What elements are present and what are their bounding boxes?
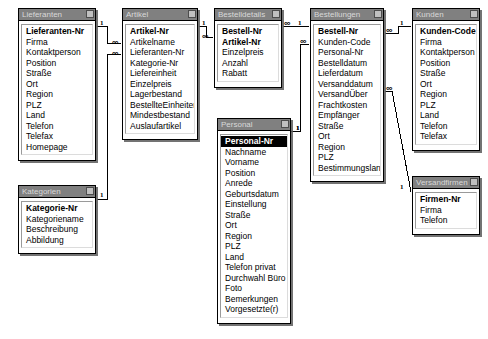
field-row-primary-key[interactable]: Artikel-Nr: [218, 37, 278, 48]
field-row[interactable]: Kategoriename: [22, 214, 92, 225]
field-row-primary-key[interactable]: Personal-Nr: [221, 136, 287, 147]
field-row[interactable]: Einzelpreis: [218, 47, 278, 58]
table-title-kategorien[interactable]: Kategorien: [19, 186, 95, 198]
table-window-bestelldetails[interactable]: BestelldetailsBestell-NrArtikel-NrEinzel…: [214, 8, 282, 88]
field-row[interactable]: Nachname: [221, 147, 287, 158]
field-row[interactable]: Land: [221, 252, 287, 263]
field-row[interactable]: Kontaktperson: [416, 47, 476, 58]
field-row[interactable]: Ort: [221, 220, 287, 231]
table-window-button[interactable]: [470, 178, 478, 186]
field-row-primary-key[interactable]: Bestell-Nr: [314, 26, 380, 37]
field-row[interactable]: Vorgesetzte(r): [221, 304, 287, 315]
field-row[interactable]: Lagerbestand: [126, 89, 194, 100]
table-window-versandfirmen[interactable]: VersandfirmenFirmen-NrFirmaTelefon: [412, 176, 480, 235]
table-window-kunden[interactable]: KundenKunden-CodeFirmaKontaktpersonPosit…: [412, 8, 480, 151]
field-row[interactable]: Land: [416, 110, 476, 121]
field-row-primary-key[interactable]: Firmen-Nr: [416, 194, 476, 205]
field-row[interactable]: Auslaufartikel: [126, 121, 194, 132]
field-row[interactable]: Region: [314, 142, 380, 153]
field-row[interactable]: Homepage: [22, 142, 92, 153]
table-window-button[interactable]: [374, 10, 382, 18]
table-field-list-kunden[interactable]: Kunden-CodeFirmaKontaktpersonPositionStr…: [413, 21, 479, 150]
field-row[interactable]: Ort: [416, 79, 476, 90]
table-field-list-lieferanten[interactable]: Lieferanten-NrFirmaKontaktpersonPosition…: [19, 21, 95, 160]
field-row[interactable]: PLZ: [22, 100, 92, 111]
table-field-list-bestellungen[interactable]: Bestell-NrKunden-CodePersonal-NrBestelld…: [311, 21, 383, 181]
field-row[interactable]: Telefon: [416, 121, 476, 132]
field-row[interactable]: Mindestbestand: [126, 110, 194, 121]
field-row[interactable]: Position: [416, 58, 476, 69]
field-row[interactable]: Beschreibung: [22, 224, 92, 235]
field-row-primary-key[interactable]: Artikel-Nr: [126, 26, 194, 37]
field-row[interactable]: Kategorie-Nr: [126, 58, 194, 69]
field-row[interactable]: PLZ: [416, 100, 476, 111]
field-row[interactable]: Durchwahl Büro: [221, 273, 287, 284]
table-window-button[interactable]: [272, 10, 280, 18]
field-row[interactable]: Firma: [22, 37, 92, 48]
field-row[interactable]: PLZ: [314, 152, 380, 163]
field-row[interactable]: VersandÜber: [314, 89, 380, 100]
field-row[interactable]: Firma: [416, 205, 476, 216]
table-window-kategorien[interactable]: KategorienKategorie-NrKategorienameBesch…: [18, 185, 96, 254]
field-row[interactable]: Straße: [221, 210, 287, 221]
field-row[interactable]: Bestelldatum: [314, 58, 380, 69]
table-window-personal[interactable]: PersonalPersonal-NrNachnameVornamePositi…: [217, 118, 291, 324]
field-row[interactable]: PLZ: [221, 241, 287, 252]
field-row[interactable]: Einzelpreis: [126, 79, 194, 90]
field-row[interactable]: Anzahl: [218, 58, 278, 69]
table-title-versandfirmen[interactable]: Versandfirmen: [413, 177, 479, 189]
field-row[interactable]: Region: [22, 89, 92, 100]
field-row[interactable]: Region: [221, 231, 287, 242]
table-window-lieferanten[interactable]: LieferantenLieferanten-NrFirmaKontaktper…: [18, 8, 96, 161]
table-field-list-bestelldetails[interactable]: Bestell-NrArtikel-NrEinzelpreisAnzahlRab…: [215, 21, 281, 87]
field-row[interactable]: Region: [416, 89, 476, 100]
field-row[interactable]: Straße: [314, 121, 380, 132]
field-row[interactable]: Land: [22, 110, 92, 121]
field-row[interactable]: Vorname: [221, 157, 287, 168]
field-row[interactable]: Position: [22, 58, 92, 69]
table-field-list-artikel[interactable]: Artikel-NrArtikelnameLieferanten-NrKateg…: [123, 21, 197, 139]
field-row[interactable]: Straße: [416, 68, 476, 79]
field-row[interactable]: Telefax: [416, 131, 476, 142]
field-row[interactable]: Kunden-Code: [314, 37, 380, 48]
table-field-list-kategorien[interactable]: Kategorie-NrKategorienameBeschreibungAbb…: [19, 198, 95, 253]
field-row[interactable]: Kontaktperson: [22, 47, 92, 58]
table-window-artikel[interactable]: ArtikelArtikel-NrArtikelnameLieferanten-…: [122, 8, 198, 140]
field-row[interactable]: Firma: [416, 37, 476, 48]
field-row-primary-key[interactable]: Bestell-Nr: [218, 26, 278, 37]
field-row[interactable]: Abbildung: [22, 235, 92, 246]
field-row[interactable]: Artikelname: [126, 37, 194, 48]
field-row[interactable]: BestellteEinheiten: [126, 100, 194, 111]
field-row[interactable]: Versanddatum: [314, 79, 380, 90]
field-row[interactable]: Anrede: [221, 178, 287, 189]
table-title-artikel[interactable]: Artikel: [123, 9, 197, 21]
relationship-line-versandfirmen-bestellungen[interactable]: [385, 91, 411, 192]
field-row-primary-key[interactable]: Kategorie-Nr: [22, 203, 92, 214]
table-window-button[interactable]: [281, 120, 289, 128]
table-title-kunden[interactable]: Kunden: [413, 9, 479, 21]
field-row[interactable]: Rabatt: [218, 68, 278, 79]
field-row[interactable]: Telefon: [416, 215, 476, 226]
field-row[interactable]: Foto: [221, 283, 287, 294]
field-row[interactable]: Ort: [314, 131, 380, 142]
field-row[interactable]: Lieferanten-Nr: [126, 47, 194, 58]
field-row[interactable]: Bemerkungen: [221, 294, 287, 305]
field-row[interactable]: Telefon privat: [221, 262, 287, 273]
field-row[interactable]: Geburtsdatum: [221, 189, 287, 200]
table-title-bestellungen[interactable]: Bestellungen: [311, 9, 383, 21]
field-row[interactable]: Lieferdatum: [314, 68, 380, 79]
field-row[interactable]: Straße: [22, 68, 92, 79]
table-window-button[interactable]: [470, 10, 478, 18]
table-window-button[interactable]: [188, 10, 196, 18]
field-row[interactable]: Telefon: [22, 121, 92, 132]
table-title-personal[interactable]: Personal: [218, 119, 290, 131]
table-window-button[interactable]: [86, 10, 94, 18]
field-row[interactable]: Einstellung: [221, 199, 287, 210]
field-row[interactable]: Empfänger: [314, 110, 380, 121]
field-row[interactable]: Frachtkosten: [314, 100, 380, 111]
field-row[interactable]: Telefax: [22, 131, 92, 142]
relationship-line-kategorien-artikel[interactable]: [97, 54, 121, 199]
relationship-line-personal-bestellungen[interactable]: [290, 44, 309, 131]
field-row-primary-key[interactable]: Lieferanten-Nr: [22, 26, 92, 37]
field-row[interactable]: Ort: [22, 79, 92, 90]
